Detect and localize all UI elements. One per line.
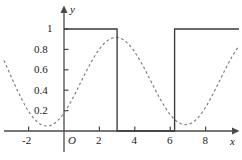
y-tick-label-0-8: 0.8 (34, 44, 48, 55)
y-tick-marks (64, 29, 69, 111)
x-axis-arrow-icon (232, 127, 240, 134)
figure-container: 1 0.8 0.6 0.4 0.2 -2 2 4 6 8 O y x (0, 0, 242, 160)
square-wave (64, 29, 239, 131)
x-tick-label-4: 4 (132, 135, 138, 146)
x-axis-label: x (230, 136, 235, 147)
y-tick-label-0-2: 0.2 (34, 105, 48, 116)
x-tick-label-minus-2: -2 (22, 135, 31, 146)
origin-label: O (68, 135, 76, 146)
x-tick-label-2: 2 (96, 135, 102, 146)
y-tick-label-1: 1 (47, 23, 53, 34)
x-tick-label-6: 6 (167, 135, 173, 146)
y-tick-label-0-6: 0.6 (34, 64, 48, 75)
y-axis-label: y (70, 4, 75, 15)
y-tick-label-0-4: 0.4 (34, 85, 48, 96)
x-tick-label-8: 8 (203, 135, 209, 146)
y-axis-arrow-icon (60, 6, 67, 14)
